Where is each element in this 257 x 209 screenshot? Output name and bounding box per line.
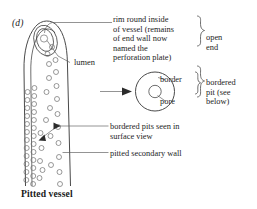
pit-cluster-surface-view [44, 45, 63, 187]
figure-pitted-vessel: (d) rim round inside of vessel (remains … [0, 0, 257, 209]
annotation-bordered-pit: bordered pit (see below) [206, 78, 254, 107]
lumen-opening [40, 35, 47, 42]
figure-caption: Pitted vessel [21, 188, 73, 199]
annotation-open-end: open end [206, 33, 248, 52]
bordered-pit-pore-circle [149, 85, 161, 97]
annotation-bordered-pits-surface-view: bordered pits seen in surface view [110, 122, 220, 141]
annotation-border: border [160, 75, 182, 85]
annotation-lumen: lumen [74, 58, 95, 68]
annotation-rim-perforation-plate: rim round inside of vessel (remains of e… [113, 15, 201, 63]
annotation-pitted-secondary-wall: pitted secondary wall [110, 149, 230, 159]
brace-border-pore [196, 72, 201, 94]
annotation-pore: pore [160, 97, 175, 107]
panel-label: (d) [12, 18, 24, 28]
pit-cluster-left-wall [24, 86, 45, 187]
leader-line-rim [45, 23, 113, 34]
magnification-arrow [100, 88, 132, 96]
